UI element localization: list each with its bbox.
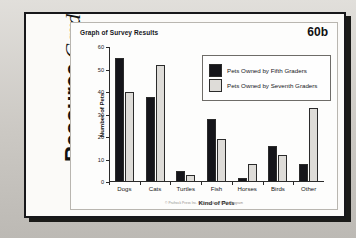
y-tick-label: 60 bbox=[98, 44, 104, 50]
y-tick-label: 10 bbox=[98, 157, 104, 163]
bar bbox=[125, 92, 134, 182]
chart-title: Graph of Survey Results bbox=[80, 29, 158, 36]
bar bbox=[268, 146, 277, 182]
card-footer-credit: © Prufrock Press Inc. • Intermediate Stu… bbox=[71, 201, 337, 205]
x-tick bbox=[140, 182, 141, 185]
legend-label-seventh: Pets Owned by Seventh Graders bbox=[227, 82, 317, 89]
bar bbox=[248, 164, 257, 182]
y-axis-title: Number of Pets bbox=[99, 92, 105, 136]
x-tick-label: Dogs bbox=[109, 185, 140, 192]
legend-swatch-icon-fifth bbox=[209, 64, 222, 77]
x-tick-label: Birds bbox=[263, 185, 294, 192]
legend-label-fifth: Pets Owned by Fifth Graders bbox=[227, 67, 307, 74]
bar bbox=[217, 139, 226, 182]
bar bbox=[176, 171, 185, 182]
bar bbox=[278, 155, 287, 182]
bar bbox=[238, 178, 247, 183]
x-tick bbox=[170, 182, 171, 185]
legend-entry-fifth-graders: Pets Owned by Fifth Graders bbox=[209, 64, 324, 77]
x-tick bbox=[263, 182, 264, 185]
x-tick bbox=[293, 182, 294, 185]
y-tick-label: 0 bbox=[101, 179, 104, 185]
bar bbox=[115, 58, 124, 182]
screenshot-root: Resource Card Graph of Survey Results 60… bbox=[0, 0, 356, 238]
bar bbox=[156, 65, 165, 182]
bar bbox=[186, 175, 195, 182]
legend-swatch-icon-seventh bbox=[209, 79, 222, 92]
bar bbox=[146, 97, 155, 183]
x-tick bbox=[201, 182, 202, 185]
x-tick-label: Horses bbox=[232, 185, 263, 192]
bar-group: Turtles bbox=[170, 47, 201, 182]
x-tick-label: Other bbox=[293, 185, 324, 192]
bar-group: Dogs bbox=[109, 47, 140, 182]
bar-group: Cats bbox=[140, 47, 171, 182]
x-tick bbox=[232, 182, 233, 185]
bar bbox=[207, 119, 216, 182]
x-tick-label: Cats bbox=[140, 185, 171, 192]
chart-legend: Pets Owned by Fifth Graders Pets Owned b… bbox=[202, 55, 331, 101]
bar bbox=[299, 164, 308, 182]
x-tick-label: Fish bbox=[201, 185, 232, 192]
x-tick-label: Turtles bbox=[170, 185, 201, 192]
y-tick-label: 50 bbox=[98, 67, 104, 73]
chart-frame: Graph of Survey Results 60b 010203040506… bbox=[70, 22, 338, 210]
bar bbox=[309, 108, 318, 182]
resource-card: Resource Card Graph of Survey Results 60… bbox=[24, 12, 346, 218]
legend-entry-seventh-graders: Pets Owned by Seventh Graders bbox=[209, 79, 324, 92]
x-tick bbox=[109, 182, 110, 185]
page-number: 60b bbox=[307, 25, 328, 39]
